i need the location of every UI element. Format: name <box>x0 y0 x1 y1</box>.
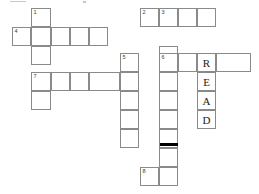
crossword-cell[interactable]: R <box>197 53 216 72</box>
crossword-cell-numbered-3[interactable]: 3 <box>159 8 178 27</box>
crossword-cell[interactable] <box>70 72 89 91</box>
crossword-cell-numbered-1[interactable]: 1 <box>31 8 51 27</box>
artifact-speck-right <box>83 1 86 3</box>
cell-clue-number: 7 <box>34 73 37 80</box>
cell-letter: R <box>198 54 215 71</box>
crossword-puzzle: 123456R7EAD8 <box>0 0 259 194</box>
crossword-cell[interactable] <box>159 148 178 167</box>
crossword-cell-numbered-7[interactable]: 7 <box>31 72 51 91</box>
cell-letter: A <box>198 92 215 109</box>
crossword-cell[interactable] <box>159 72 178 91</box>
artifact-speck-left <box>10 1 26 2</box>
cell-clue-number: 3 <box>162 9 165 16</box>
crossword-cell[interactable] <box>31 91 51 110</box>
cell-letter: D <box>198 111 215 128</box>
crossword-cell[interactable] <box>216 53 251 72</box>
crossword-cell[interactable]: E <box>197 72 216 91</box>
crossword-cell[interactable] <box>178 53 197 72</box>
crossword-cell[interactable]: A <box>197 91 216 110</box>
crossword-cell[interactable] <box>51 27 70 46</box>
crossword-cell-numbered-2[interactable]: 2 <box>140 8 159 27</box>
crossword-cell[interactable] <box>159 91 178 110</box>
crossword-cell-numbered-4[interactable]: 4 <box>12 27 31 46</box>
cell-clue-number: 5 <box>123 54 126 61</box>
cell-letter: E <box>198 73 215 90</box>
crossword-cell[interactable] <box>70 27 89 46</box>
crossword-cell[interactable] <box>89 72 120 91</box>
crossword-cell-numbered-8[interactable]: 8 <box>140 167 159 186</box>
crossword-cell[interactable]: D <box>197 110 216 129</box>
crossword-cell[interactable] <box>197 8 216 27</box>
crossword-cell[interactable] <box>120 72 139 91</box>
crossword-cell[interactable] <box>89 27 108 46</box>
crossword-cell[interactable] <box>120 110 139 129</box>
crossword-cell-numbered-5[interactable]: 5 <box>120 53 139 72</box>
crossword-cell-numbered-6[interactable]: 6 <box>159 53 178 72</box>
crossword-cell[interactable] <box>159 167 178 186</box>
crossword-cell[interactable] <box>159 110 178 129</box>
crossword-cell[interactable] <box>51 72 70 91</box>
cell-clue-number: 1 <box>34 9 37 16</box>
crossword-cell[interactable] <box>178 8 197 27</box>
block-bar <box>160 143 178 146</box>
cell-clue-number: 6 <box>162 54 165 61</box>
crossword-cell[interactable] <box>120 91 139 110</box>
crossword-cell[interactable] <box>120 129 139 148</box>
crossword-cell[interactable] <box>31 27 51 46</box>
crossword-cell[interactable] <box>31 46 51 65</box>
cell-clue-number: 8 <box>143 168 146 175</box>
cell-clue-number: 2 <box>143 9 146 16</box>
cell-clue-number: 4 <box>15 28 18 35</box>
